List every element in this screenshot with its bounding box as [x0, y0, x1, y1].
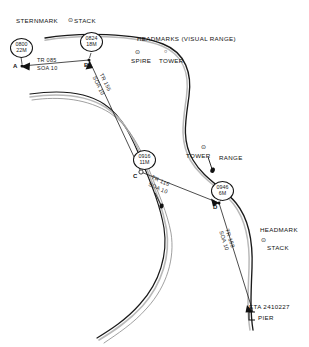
- spire-label: SPIRE: [131, 57, 151, 64]
- waypoint-d-marker[interactable]: 0946 6M: [211, 181, 234, 201]
- headmark-stack-icon: ⊙: [261, 238, 266, 244]
- tower-mid-label: TOWER: [186, 152, 211, 159]
- headmarks-heading: HEADMARKS (VISUAL RANGE): [137, 35, 236, 42]
- range-label: RANGE: [219, 154, 243, 161]
- tower-upper-icon: ○: [164, 49, 167, 55]
- navigation-chart: STERNMARK ⊙ STACK HEADMARKS (VISUAL RANG…: [0, 0, 309, 347]
- tower-upper-label: TOWER: [159, 57, 184, 64]
- waypoint-b-distance: 18M: [86, 42, 96, 48]
- waypoint-leaders: [21, 53, 222, 202]
- point-c-label: C: [133, 173, 137, 180]
- tower-mid-icon: ⊙: [201, 145, 206, 151]
- headmark-heading: HEADMARK: [260, 226, 298, 233]
- sternmark-stack-label: STACK: [74, 17, 96, 24]
- leg-ab-track: TR 085: [37, 57, 57, 64]
- waypoint-c-marker[interactable]: 0916 11M: [133, 150, 156, 170]
- waypoint-c-distance: 11M: [140, 160, 150, 166]
- waypoint-a-marker[interactable]: 0800 22M: [10, 38, 33, 58]
- pier-label: PIER: [258, 314, 274, 321]
- sternmark-heading: STERNMARK: [16, 17, 58, 24]
- range-marker-symbol: [208, 157, 216, 174]
- headmark-stack-label: STACK: [267, 244, 289, 251]
- chart-linework: [0, 0, 309, 347]
- south-bank-outer: [32, 98, 172, 343]
- eta-label: ETA 2410227: [249, 303, 290, 310]
- sternmark-stack-icon: ⊙: [68, 18, 73, 24]
- waypoint-b-marker[interactable]: 0824 18M: [80, 32, 103, 52]
- waypoint-d-distance: 6M: [219, 191, 226, 197]
- point-a-label: A: [13, 63, 17, 70]
- waypoint-dots: [21, 59, 221, 205]
- waypoint-a-distance: 22M: [16, 48, 26, 54]
- south-bank: [30, 92, 168, 340]
- point-d-label: D: [213, 204, 217, 211]
- leg-ab-soa: SOA 10: [37, 65, 57, 72]
- point-b-label: B: [84, 62, 88, 69]
- spire-icon: ⊙: [135, 50, 140, 56]
